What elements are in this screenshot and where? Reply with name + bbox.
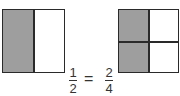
fraction-one-half: 1 2 <box>69 66 77 95</box>
equals-sign: = <box>84 71 93 87</box>
denominator: 4 <box>105 82 112 95</box>
denominator: 2 <box>69 82 76 95</box>
divider-vertical <box>33 10 35 72</box>
numerator: 2 <box>105 66 112 79</box>
quarters-square <box>118 9 179 73</box>
half-square <box>2 9 65 73</box>
numerator: 1 <box>69 66 76 79</box>
fraction-two-quarters: 2 4 <box>105 66 113 95</box>
shaded-half <box>3 10 34 72</box>
divider-horizontal <box>119 41 178 43</box>
